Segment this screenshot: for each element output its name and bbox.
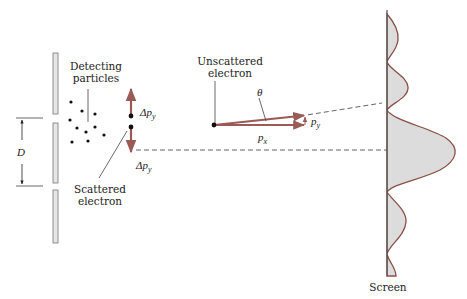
theta-label: θ <box>257 86 263 98</box>
py-label: py <box>310 115 321 130</box>
screen-intensity-pattern <box>387 10 455 276</box>
scattered-leader-line <box>99 131 127 178</box>
delta-py-top-label: Δpy <box>139 106 156 121</box>
slit-barrier <box>53 53 58 243</box>
unscattered-label-line2: electron <box>208 67 252 79</box>
scattered-label-line1: Scattered <box>74 183 126 195</box>
screen-label: Screen <box>369 281 407 293</box>
scattered-label-line2: electron <box>78 195 122 207</box>
delta-py-bottom-label: Δpy <box>135 159 152 174</box>
slit-separation-label: D <box>16 146 25 158</box>
theta-leader-line <box>259 98 266 121</box>
unscattered-label-line1: Unscattered <box>197 55 263 67</box>
detecting-particles <box>68 100 105 143</box>
double-slit-diagram: D Detecting particles Δpy Δpy Scattered … <box>0 0 467 299</box>
detecting-label-line2: particles <box>73 72 119 84</box>
detecting-label-line1: Detecting <box>70 60 122 72</box>
px-label: px <box>257 131 268 146</box>
deflected-path-dashed <box>308 103 382 115</box>
scattered-momentum-arrows <box>129 89 134 152</box>
momentum-vectors <box>212 116 305 128</box>
